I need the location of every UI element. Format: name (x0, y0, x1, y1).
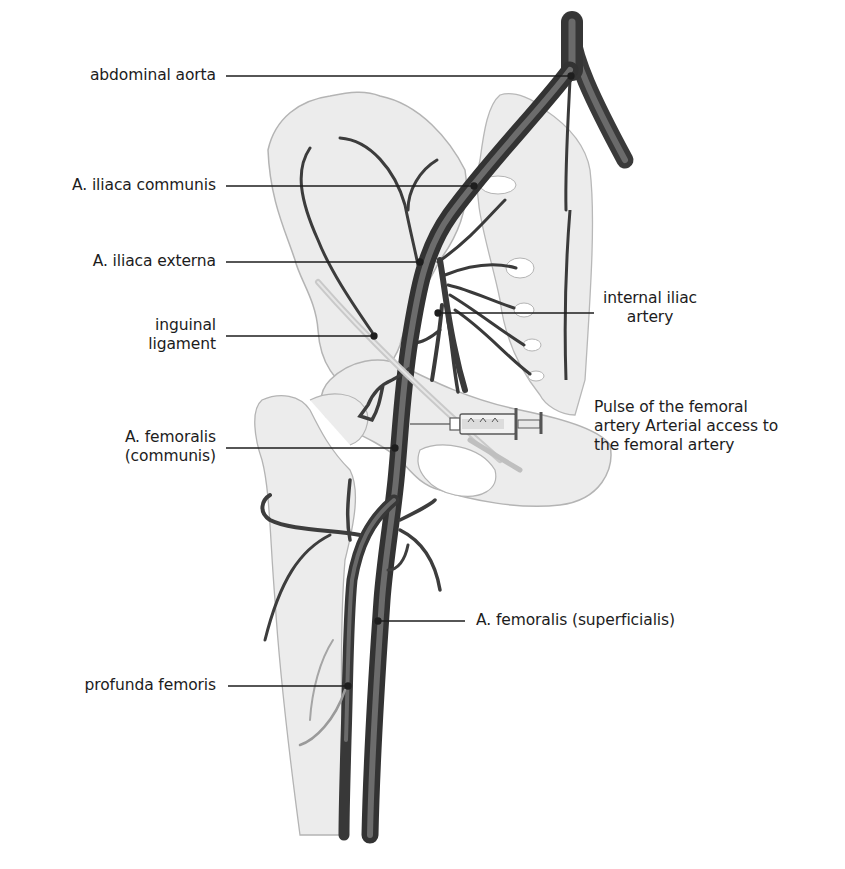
label-abdominal-aorta: abdominal aorta (40, 66, 216, 85)
anatomy-diagram: abdominal aorta A. iliaca communis A. il… (0, 0, 845, 869)
label-inguinal-ligament: inguinal ligament (100, 316, 216, 354)
label-iliaca-communis: A. iliaca communis (20, 176, 216, 195)
sacrum (477, 94, 592, 415)
label-femoralis-superficialis: A. femoralis (superficialis) (476, 611, 706, 630)
label-internal-iliac-artery: internal iliac artery (590, 289, 710, 327)
label-iliaca-externa: A. iliaca externa (20, 252, 216, 271)
label-profunda-femoris: profunda femoris (40, 676, 216, 695)
label-femoral-pulse-access: Pulse of the femoral artery Arterial acc… (594, 398, 824, 455)
label-femoralis-communis: A. femoralis (communis) (60, 428, 216, 466)
